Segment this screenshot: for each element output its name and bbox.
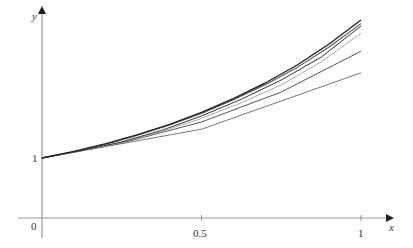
series-line-approx-16	[42, 26, 361, 158]
series-line-exact	[42, 20, 361, 158]
y-axis-label: y	[31, 10, 37, 22]
x-tick-label-1: 1	[358, 227, 364, 239]
euler-approximation-chart: y x 0 1 0.5 1	[0, 0, 413, 248]
series-layer	[42, 20, 361, 158]
x-axis-label: x	[388, 221, 394, 233]
series-line-approx-4	[42, 51, 361, 158]
axes: y x 0 1 0.5 1	[18, 8, 394, 239]
origin-label: 0	[31, 220, 37, 232]
series-line-approx-2	[42, 73, 361, 158]
series-line-approx-8	[42, 33, 361, 158]
series-line-approx-32	[42, 24, 361, 158]
y-tick-label-1: 1	[32, 152, 38, 164]
x-tick-label-0.5: 0.5	[193, 227, 207, 239]
